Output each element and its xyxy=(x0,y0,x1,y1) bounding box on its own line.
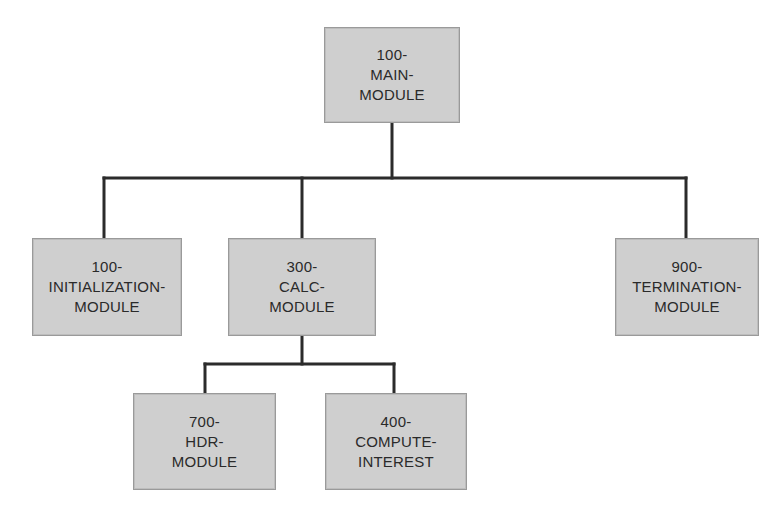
node-label-line: 900- xyxy=(632,257,742,277)
node-label-line: COMPUTE- xyxy=(355,432,437,452)
node-initialization-module: 100- INITIALIZATION- MODULE xyxy=(32,238,182,336)
node-label-line: INITIALIZATION- xyxy=(49,277,166,297)
node-label-line: 100- xyxy=(49,257,166,277)
node-label-line: MODULE xyxy=(172,452,237,472)
node-calc-module: 300- CALC- MODULE xyxy=(228,238,376,336)
node-hdr-module: 700- HDR- MODULE xyxy=(133,393,276,490)
node-termination-module: 900- TERMINATION- MODULE xyxy=(615,238,759,336)
node-label-line: 400- xyxy=(355,412,437,432)
node-label-line: TERMINATION- xyxy=(632,277,742,297)
node-label-line: HDR- xyxy=(172,432,237,452)
node-compute-interest: 400- COMPUTE- INTEREST xyxy=(325,393,467,490)
node-label-line: MAIN- xyxy=(359,65,424,85)
node-label-line: MODULE xyxy=(359,85,424,105)
node-label-line: CALC- xyxy=(269,277,334,297)
node-label-line: 700- xyxy=(172,412,237,432)
node-label-line: INTEREST xyxy=(355,452,437,472)
node-label-line: MODULE xyxy=(49,297,166,317)
node-label-line: 100- xyxy=(359,45,424,65)
node-label-line: 300- xyxy=(269,257,334,277)
node-main-module: 100- MAIN- MODULE xyxy=(324,27,460,123)
node-label-line: MODULE xyxy=(632,297,742,317)
node-label-line: MODULE xyxy=(269,297,334,317)
